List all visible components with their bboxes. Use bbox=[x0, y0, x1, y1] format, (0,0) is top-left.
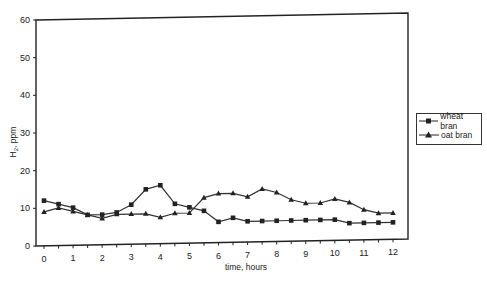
line-chart: 0102030405060 0123456789101112 time, hou… bbox=[0, 0, 487, 282]
y-tick-label: 10 bbox=[20, 203, 30, 213]
y-axis: 0102030405060 bbox=[20, 15, 36, 251]
square-marker bbox=[391, 220, 396, 225]
x-tick-label: 2 bbox=[100, 253, 105, 263]
square-marker bbox=[187, 205, 192, 210]
square-marker-icon bbox=[419, 117, 438, 125]
square-marker bbox=[245, 219, 250, 224]
y-tick-label: 30 bbox=[20, 128, 30, 138]
legend: wheat bran oat bran bbox=[416, 113, 482, 145]
x-axis-title: time, hours bbox=[225, 262, 267, 272]
x-tick-label: 5 bbox=[187, 251, 192, 261]
x-tick-label: 7 bbox=[245, 250, 250, 260]
legend-item-oat-bran: oat bran bbox=[417, 128, 481, 142]
square-marker bbox=[42, 198, 47, 203]
square-marker bbox=[231, 216, 236, 221]
legend-item-wheat-bran: wheat bran bbox=[417, 114, 481, 128]
x-tick-label: 1 bbox=[71, 253, 76, 263]
x-tick-label: 4 bbox=[158, 252, 163, 262]
square-marker bbox=[274, 218, 279, 223]
y-tick-label: 50 bbox=[20, 53, 30, 63]
x-tick-label: 11 bbox=[359, 248, 368, 258]
square-marker bbox=[347, 221, 352, 226]
y-axis-title: H2, ppm bbox=[8, 127, 19, 158]
square-marker bbox=[158, 183, 163, 188]
square-marker bbox=[289, 218, 294, 223]
square-marker bbox=[303, 218, 308, 223]
x-tick-label: 12 bbox=[388, 247, 398, 257]
y-tick-label: 0 bbox=[25, 241, 30, 251]
triangle-marker-icon bbox=[419, 131, 439, 139]
x-tick-label: 9 bbox=[303, 249, 308, 259]
x-tick-label: 0 bbox=[41, 254, 46, 264]
square-marker bbox=[202, 209, 207, 214]
square-marker bbox=[143, 187, 148, 192]
x-tick-label: 10 bbox=[330, 248, 340, 258]
square-marker bbox=[376, 220, 381, 225]
legend-label: wheat bran bbox=[440, 111, 481, 131]
square-marker bbox=[129, 202, 134, 207]
x-tick-label: 3 bbox=[129, 252, 134, 262]
plot-area bbox=[36, 13, 408, 246]
square-marker bbox=[333, 217, 338, 222]
square-marker bbox=[318, 218, 323, 223]
square-marker bbox=[216, 220, 221, 225]
legend-label: oat bran bbox=[441, 130, 472, 140]
y-tick-label: 40 bbox=[20, 90, 30, 100]
square-marker bbox=[362, 221, 367, 226]
square-marker bbox=[260, 219, 265, 224]
square-marker bbox=[173, 202, 178, 207]
x-tick-label: 6 bbox=[216, 251, 221, 261]
y-tick-label: 60 bbox=[20, 15, 30, 25]
x-tick-label: 8 bbox=[274, 249, 279, 259]
y-tick-label: 20 bbox=[20, 166, 30, 176]
